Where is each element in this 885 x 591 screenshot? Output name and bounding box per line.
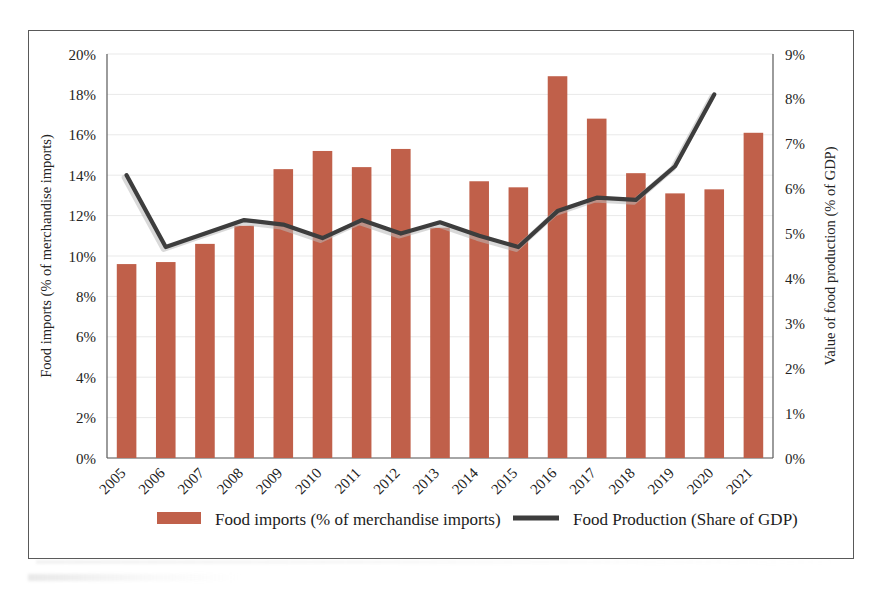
x-axis-tick-label-2019: 2019 <box>645 465 678 498</box>
x-axis-tick-label-2021: 2021 <box>723 465 756 498</box>
bar-rect <box>391 149 411 458</box>
bar-rect <box>117 264 137 458</box>
bar-rect <box>626 173 646 458</box>
left-axis-tick-label: 10% <box>69 249 97 265</box>
bar-2006 <box>156 262 176 458</box>
x-axis-tick-label-2016: 2016 <box>527 464 560 497</box>
x-axis-tick-label-2015: 2015 <box>488 465 521 498</box>
x-axis-tick-label-2011: 2011 <box>332 465 364 497</box>
scan-artifact-upper <box>36 560 836 564</box>
bar-2016 <box>548 76 568 458</box>
x-axis-tick-label-2007: 2007 <box>175 464 208 497</box>
bar-2005 <box>117 264 137 458</box>
x-axis-tick-label-2013: 2013 <box>410 465 443 498</box>
x-axis-tick-label-2014: 2014 <box>449 464 482 497</box>
left-axis-tick-label: 20% <box>69 47 97 63</box>
bar-rect <box>352 167 372 458</box>
figure-container: 0%2%4%6%8%10%12%14%16%18%20%0%1%2%3%4%5%… <box>0 0 885 591</box>
legend-label-food-production: Food Production (Share of GDP) <box>573 510 798 529</box>
right-axis-title: Value of food production (% of GDP) <box>822 146 839 365</box>
bar-rect <box>274 169 294 458</box>
bar-2014 <box>469 181 489 458</box>
bar-rect <box>548 76 568 458</box>
right-axis-tick-label: 2% <box>785 361 805 377</box>
left-axis-tick-label: 14% <box>69 168 97 184</box>
left-axis-tick-label: 6% <box>76 329 96 345</box>
right-axis-tick-label: 1% <box>785 406 805 422</box>
legend-swatch-food-imports <box>157 512 201 524</box>
x-axis-tick-label-2009: 2009 <box>253 465 286 498</box>
bar-2021 <box>744 133 764 458</box>
bar-rect <box>704 189 724 458</box>
bar-2008 <box>234 226 254 458</box>
line-series-shadow <box>124 97 712 250</box>
bar-rect <box>195 244 215 458</box>
right-axis-tick-label: 5% <box>785 226 805 242</box>
bar-rect <box>665 193 685 458</box>
bar-rect <box>744 133 764 458</box>
left-axis-tick-label: 0% <box>76 451 96 467</box>
right-axis-tick-label: 7% <box>785 136 805 152</box>
x-axis-tick-label-2008: 2008 <box>214 465 247 498</box>
bar-2020 <box>704 189 724 458</box>
chart-frame: 0%2%4%6%8%10%12%14%16%18%20%0%1%2%3%4%5%… <box>28 30 854 559</box>
right-axis-tick-label: 0% <box>785 451 805 467</box>
bar-2015 <box>509 187 529 458</box>
left-axis-tick-label: 18% <box>69 87 97 103</box>
bar-rect <box>313 151 333 458</box>
left-axis-tick-label: 16% <box>69 127 97 143</box>
right-axis-tick-label: 8% <box>785 91 805 107</box>
right-axis-tick-label: 6% <box>785 181 805 197</box>
bar-rect <box>234 226 254 458</box>
bar-2013 <box>430 228 450 458</box>
legend-label-food-imports: Food imports (% of merchandise imports) <box>215 510 501 529</box>
x-axis-tick-label-2012: 2012 <box>370 465 403 498</box>
left-axis-tick-label: 4% <box>76 370 96 386</box>
bar-2017 <box>587 119 607 458</box>
x-axis-tick-label-2010: 2010 <box>292 465 325 498</box>
x-axis-tick-label-2018: 2018 <box>605 465 638 498</box>
bar-rect <box>469 181 489 458</box>
scan-artifact-lower <box>28 574 243 581</box>
bar-rect <box>509 187 529 458</box>
right-axis-tick-label: 9% <box>785 47 805 63</box>
bar-2012 <box>391 149 411 458</box>
bar-2018 <box>626 173 646 458</box>
x-axis-tick-label-2006: 2006 <box>135 464 168 497</box>
bar-2019 <box>665 193 685 458</box>
bar-rect <box>156 262 176 458</box>
combo-chart: 0%2%4%6%8%10%12%14%16%18%20%0%1%2%3%4%5%… <box>29 31 855 560</box>
bar-2007 <box>195 244 215 458</box>
bar-2011 <box>352 167 372 458</box>
left-axis-tick-label: 2% <box>76 410 96 426</box>
bar-2010 <box>313 151 333 458</box>
left-axis-title: Food imports (% of merchandise imports) <box>38 134 55 378</box>
x-axis-tick-label-2020: 2020 <box>684 465 717 498</box>
bar-rect <box>587 119 607 458</box>
right-axis-tick-label: 4% <box>785 271 805 287</box>
bar-2009 <box>274 169 294 458</box>
left-axis-tick-label: 8% <box>76 289 96 305</box>
x-axis-tick-label-2005: 2005 <box>96 465 129 498</box>
bar-rect <box>430 228 450 458</box>
right-axis-tick-label: 3% <box>785 316 805 332</box>
x-axis-tick-label-2017: 2017 <box>566 464 599 497</box>
left-axis-tick-label: 12% <box>69 208 97 224</box>
